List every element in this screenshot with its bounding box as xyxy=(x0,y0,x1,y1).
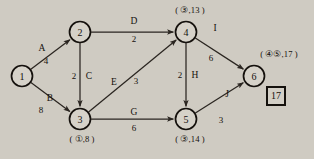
node-3: 3 xyxy=(70,109,91,130)
edge-weight-d: 2 xyxy=(132,34,137,44)
edge-label-a: A xyxy=(39,43,46,53)
edge-label-i: I xyxy=(213,23,216,33)
edge-weight-g: 6 xyxy=(132,123,137,133)
answer-box: 17 xyxy=(266,86,286,106)
node-1: 1 xyxy=(12,66,33,87)
edge-label-j: J xyxy=(225,89,229,99)
edge-weight-b: 8 xyxy=(39,105,44,115)
node-2: 2 xyxy=(70,22,91,43)
node-annotation-3: ( ①,8 ) xyxy=(69,134,94,144)
edge-label-c: C xyxy=(86,71,92,81)
graph-canvas: 123456 ( ①,8 )( ③,13 )( ③,14 )( ④⑤,17 ) … xyxy=(0,0,314,159)
node-annotation-4: ( ③,13 ) xyxy=(175,5,205,15)
edge-j xyxy=(195,83,243,113)
node-label-6: 6 xyxy=(252,71,257,82)
node-5: 5 xyxy=(176,109,197,130)
node-label-4: 4 xyxy=(184,27,189,38)
node-label-1: 1 xyxy=(20,71,25,82)
edge-e xyxy=(89,40,177,112)
edge-weight-c: 2 xyxy=(72,71,77,81)
edge-label-e: E xyxy=(111,77,117,87)
edge-label-g: G xyxy=(131,107,138,117)
node-6: 6 xyxy=(244,66,265,87)
node-4: 4 xyxy=(176,22,197,43)
edge-label-d: D xyxy=(131,16,138,26)
network-diagram: 123456 ( ①,8 )( ③,13 )( ③,14 )( ④⑤,17 ) … xyxy=(0,0,314,159)
edge-i xyxy=(195,38,243,69)
edge-label-h: H xyxy=(192,70,199,80)
node-label-3: 3 xyxy=(78,114,83,125)
node-label-2: 2 xyxy=(78,27,83,38)
edge-weight-i: 6 xyxy=(209,53,214,63)
node-label-5: 5 xyxy=(184,114,189,125)
node-annotation-5: ( ③,14 ) xyxy=(175,134,205,144)
node-annotation-6: ( ④⑤,17 ) xyxy=(260,49,298,59)
edge-weight-a: 4 xyxy=(44,56,49,66)
edge-a xyxy=(31,40,70,70)
edge-weight-h: 2 xyxy=(178,70,183,80)
edge-weight-j: 3 xyxy=(219,115,224,125)
edge-weight-e: 3 xyxy=(134,76,139,86)
edge-label-b: B xyxy=(47,93,53,103)
